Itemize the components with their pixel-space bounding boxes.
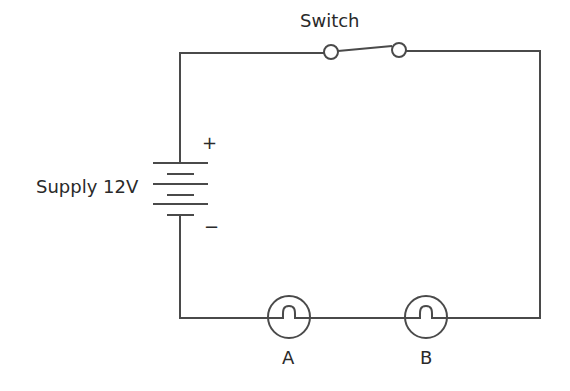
switch-terminal-right xyxy=(392,43,406,57)
lamp-a xyxy=(268,296,310,338)
negative-terminal-label: − xyxy=(204,216,219,237)
supply-label: Supply 12V xyxy=(36,176,138,197)
positive-terminal-label: + xyxy=(202,132,217,153)
lamp-b xyxy=(405,296,447,338)
battery-symbol xyxy=(153,163,208,215)
switch-terminal-left xyxy=(324,45,338,59)
switch-symbol xyxy=(324,43,406,59)
lamp-a-label: A xyxy=(282,347,294,368)
switch-lever xyxy=(338,46,392,51)
wire-left-bottom xyxy=(180,215,268,318)
switch-label: Switch xyxy=(300,10,360,31)
wire-top-right xyxy=(406,51,540,318)
lamp-b-label: B xyxy=(420,347,432,368)
